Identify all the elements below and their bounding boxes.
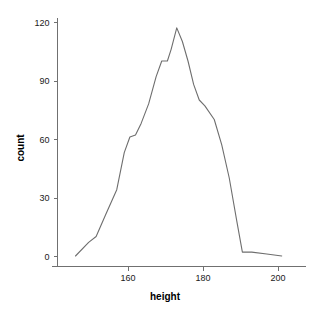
y-axis: 0306090120 [34,18,57,268]
y-tick-label: 60 [39,135,49,145]
y-axis-tick-labels: 0306090120 [34,18,49,262]
y-axis-ticks [54,23,58,257]
x-axis: 160180200 [52,267,306,283]
x-axis-title: height [150,291,181,302]
data-line-count [76,28,282,256]
y-tick-label: 30 [39,193,49,203]
chart-container: 0306090120 160180200 height count [0,0,309,321]
x-tick-label: 180 [195,273,210,283]
x-tick-label: 200 [270,273,285,283]
data-series-group [76,28,282,256]
frequency-polygon-chart: 0306090120 160180200 height count [0,0,309,321]
x-axis-tick-labels: 160180200 [120,273,285,283]
y-axis-title: count [15,134,26,162]
y-tick-label: 120 [34,18,49,28]
x-tick-label: 160 [120,273,135,283]
y-tick-label: 0 [44,252,49,262]
y-tick-label: 90 [39,76,49,86]
x-axis-ticks [129,267,279,271]
